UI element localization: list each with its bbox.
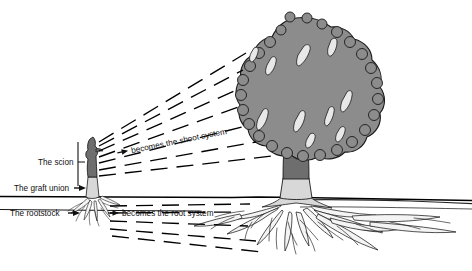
scallop-17 <box>267 141 278 152</box>
scion-label: The scion <box>38 158 74 167</box>
scallop-18 <box>254 131 265 142</box>
scallop-19 <box>244 119 255 130</box>
scallop-15 <box>298 151 309 162</box>
rootstock-label: The rootstock <box>10 209 61 218</box>
graft-union-label: The graft union <box>14 184 70 193</box>
scallop-16 <box>282 148 293 159</box>
scallop-13 <box>332 145 343 156</box>
scallop-7 <box>366 63 377 74</box>
scallop-20 <box>238 105 249 116</box>
scallop-21 <box>236 90 247 101</box>
scallop-10 <box>369 110 380 121</box>
scallop-25 <box>265 37 276 48</box>
scallop-6 <box>357 49 368 60</box>
tree-rootstock-section <box>280 178 312 200</box>
scallop-26 <box>276 25 286 35</box>
scallop-9 <box>373 94 384 105</box>
becomes-root-label-group: becomes the root system <box>108 209 214 218</box>
scallop-22 <box>238 75 249 86</box>
scallop-5 <box>345 37 356 48</box>
scallop-1 <box>285 12 295 22</box>
sapling-rootstock-section <box>86 177 99 199</box>
scallop-8 <box>372 78 383 89</box>
scallop-23 <box>245 61 256 72</box>
diagram-canvas: The scion The graft union The rootstock … <box>0 0 472 271</box>
scallop-12 <box>347 137 358 148</box>
scallop-11 <box>360 125 371 136</box>
graft-diagram-figure: The scion The graft union The rootstock … <box>0 0 472 271</box>
becomes-root-label: becomes the root system <box>122 209 214 218</box>
scallop-4 <box>332 27 343 38</box>
scallop-3 <box>317 19 327 29</box>
scallop-14 <box>315 150 326 161</box>
scallop-2 <box>302 13 312 23</box>
